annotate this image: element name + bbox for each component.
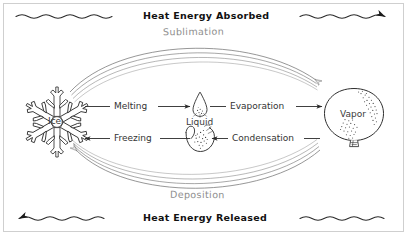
melting-label: Melting xyxy=(114,102,147,111)
liquid-label: Liquid xyxy=(186,118,213,127)
sublimation-arc xyxy=(70,48,318,102)
freezing-label: Freezing xyxy=(114,134,152,143)
deposition-label: Deposition xyxy=(170,190,225,200)
water-splash-icon xyxy=(186,125,214,152)
water-droplet-icon xyxy=(193,92,207,117)
evaporation-label: Evaporation xyxy=(230,102,284,111)
vapor-label: Vapor xyxy=(340,110,366,119)
water-phase-change-diagram: Heat Energy Absorbed Heat Energy Release… xyxy=(0,0,407,235)
sublimation-label: Sublimation xyxy=(163,27,224,37)
heat-absorbed-title: Heat Energy Absorbed xyxy=(143,11,269,21)
condensation-label: Condensation xyxy=(232,134,294,143)
heat-wave-top-left xyxy=(16,15,112,18)
ice-label: Ice xyxy=(48,117,61,126)
heat-wave-bottom-right xyxy=(300,217,384,220)
heat-wave-top-right xyxy=(300,15,385,18)
heat-wave-bottom-left xyxy=(19,217,104,220)
heat-released-title: Heat Energy Released xyxy=(143,213,267,223)
